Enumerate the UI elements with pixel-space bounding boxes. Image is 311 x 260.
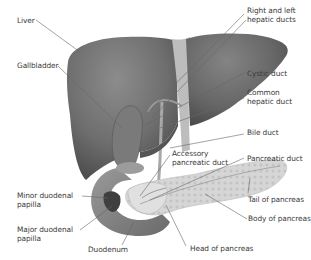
- label-common-hepatic-duct: Common hepatic duct: [247, 88, 292, 106]
- label-gallbladder: Gallbladder: [17, 61, 59, 70]
- label-bile-duct: Bile duct: [247, 128, 279, 137]
- liver-left-lobe: [186, 34, 288, 126]
- label-head-of-pancreas: Head of pancreas: [190, 244, 253, 253]
- duodenum-top: [116, 162, 144, 174]
- label-tail-of-pancreas: Tail of pancreas: [248, 195, 304, 204]
- anatomy-diagram: Liver Gallbladder Right and left hepatic…: [0, 0, 311, 260]
- label-cystic-duct: Cystic duct: [247, 69, 287, 78]
- label-major-duodenal-papilla: Major duodenal papilla: [17, 225, 73, 243]
- label-body-of-pancreas: Body of pancreas: [248, 214, 311, 223]
- label-right-left-hepatic-ducts: Right and left hepatic ducts: [247, 6, 296, 24]
- label-pancreatic-duct: Pancreatic duct: [247, 154, 303, 163]
- label-accessory-pancreatic-duct: Accessory pancreatic duct: [172, 149, 228, 167]
- label-liver: Liver: [17, 16, 35, 25]
- label-duodenum: Duodenum: [88, 245, 128, 254]
- label-minor-duodenal-papilla: Minor duodenal papilla: [17, 191, 73, 209]
